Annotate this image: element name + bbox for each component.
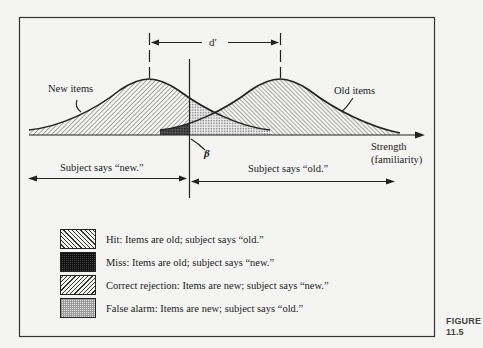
axis-arrowhead <box>415 132 425 139</box>
hit-pattern-swatch <box>60 229 96 249</box>
new-items-label: New items <box>48 83 93 95</box>
diagram-canvas <box>0 0 483 348</box>
says-new-label: Subject says “new.” <box>60 162 144 174</box>
false-alarm-pattern-swatch <box>60 298 96 318</box>
axis-label-strength: Strength <box>371 141 407 153</box>
says-old-label: Subject says “old.” <box>248 163 328 175</box>
beta-label: β <box>204 147 210 159</box>
legend-item-correct-rejection: Correct rejection: Items are new; subjec… <box>60 275 329 295</box>
correct-rejection-pattern-swatch <box>60 275 96 295</box>
miss-pattern-swatch <box>60 252 96 272</box>
legend-item-false-alarm: False alarm: Items are new; subject says… <box>60 298 303 318</box>
figure-label: FIGURE <box>446 316 481 326</box>
correct-rejection-region <box>29 70 189 136</box>
legend-label: Correct rejection: Items are new; subjec… <box>106 280 329 291</box>
legend-item-miss: Miss: Items are old; subject says “new.” <box>60 252 274 272</box>
old-items-label: Old items <box>334 85 375 97</box>
legend-label: Hit: Items are old; subject says “old.” <box>106 234 264 245</box>
figure-number: 11.5 <box>446 327 464 337</box>
legend-label: Miss: Items are old; subject says “new.” <box>106 257 274 268</box>
axis-label-familiarity: (familiarity) <box>371 154 422 166</box>
signal-detection-figure: d′ New items Old items β Strength (famil… <box>0 0 483 348</box>
d-prime-label: d′ <box>209 36 217 48</box>
legend-label: False alarm: Items are new; subject says… <box>106 303 303 314</box>
legend-item-hit: Hit: Items are old; subject says “old.” <box>60 229 264 249</box>
